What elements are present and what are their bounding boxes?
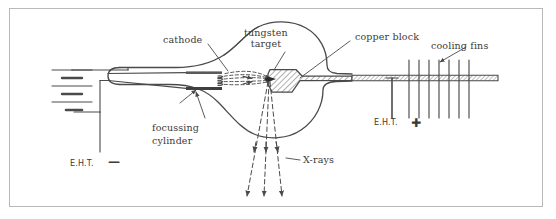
eht-positive-sign: ✚ [411,116,421,130]
cathode-assembly [108,71,223,90]
anode-block [264,70,498,93]
label-copper-block: copper block [355,31,419,42]
leader-focussing [196,92,205,118]
label-tungsten-target-line2: target [251,38,281,49]
leader-copper [300,41,350,78]
leader-cathode [208,44,228,71]
label-eht-positive: E.H.T. [374,118,398,127]
leader-tungsten [274,52,285,70]
label-eht-negative: E.H.T. [70,159,94,168]
label-cathode: cathode [163,34,203,45]
xray-tube-diagram: cathode tungsten target copper block coo… [0,0,556,219]
eht-negative-sign: — [108,155,120,169]
leader-lines [180,41,466,160]
cooling-fins [409,60,469,118]
filament-coil [218,76,223,86]
label-cooling-fins: cooling fins [431,40,488,51]
label-tungsten-target-line1: tungsten [244,27,288,38]
label-xrays: X-rays [303,154,334,165]
label-focussing-line2: cylinder [152,135,193,146]
leader-focussing-2 [180,90,196,103]
figure-canvas: cathode tungsten target copper block coo… [0,0,556,219]
leader-xrays [286,158,300,160]
xray-beam [247,82,282,196]
xray-beam-midarrows [254,142,278,152]
label-focussing-line1: focussing [152,122,199,133]
battery-symbol [52,70,92,110]
